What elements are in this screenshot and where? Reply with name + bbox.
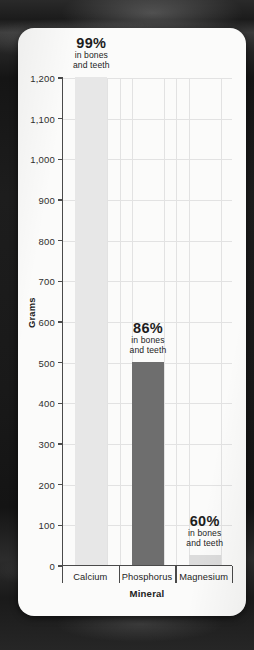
- y-axis-tick-label: 500: [39, 357, 55, 368]
- y-axis-tick-label: 200: [39, 479, 55, 490]
- x-axis-title: Mineral: [62, 588, 232, 599]
- category-separator: [232, 566, 233, 583]
- bar-magnesium[interactable]: [189, 555, 221, 565]
- annotation-percent: 99%: [63, 35, 120, 51]
- bar-annotation-calcium: 99%in bonesand teeth: [63, 35, 120, 70]
- plot-area: 01002003004005006007008009001,0001,1001,…: [62, 78, 232, 566]
- bar-annotation-phosphorus: 86%in bonesand teeth: [120, 320, 177, 355]
- y-axis-tick: [58, 362, 63, 363]
- y-axis-tick: [58, 118, 63, 119]
- y-axis-tick: [58, 443, 63, 444]
- y-axis-tick-label: 400: [39, 398, 55, 409]
- y-axis-title: Grams: [26, 297, 37, 328]
- y-axis-tick-label: 900: [39, 195, 55, 206]
- annotation-percent: 86%: [120, 320, 177, 336]
- y-axis-tick-label: 600: [39, 317, 55, 328]
- annotation-line-2: and teeth: [176, 539, 233, 549]
- annotation-line-2: and teeth: [120, 346, 177, 356]
- gridline-vertical: [221, 78, 222, 565]
- gridline-vertical: [189, 78, 190, 565]
- y-axis-tick-label: 1,000: [30, 154, 55, 165]
- bar-calcium[interactable]: [75, 77, 107, 565]
- category-label-magnesium: Magnesium: [175, 572, 232, 582]
- y-axis-tick-label: 0: [50, 561, 55, 572]
- y-axis-tick-label: 100: [39, 520, 55, 531]
- bar-annotation-magnesium: 60%in bonesand teeth: [176, 513, 233, 548]
- bar-phosphorus[interactable]: [132, 362, 164, 565]
- category-label-calcium: Calcium: [62, 572, 119, 582]
- y-axis-tick: [58, 199, 63, 200]
- category-label-phosphorus: Phosphorus: [119, 572, 176, 582]
- y-axis-tick: [58, 77, 63, 78]
- chart-card: Grams 01002003004005006007008009001,0001…: [18, 28, 246, 616]
- category-separator: [175, 566, 176, 583]
- y-axis-tick: [58, 484, 63, 485]
- annotation-percent: 60%: [176, 513, 233, 529]
- annotation-line-2: and teeth: [63, 61, 120, 71]
- category-separator: [62, 566, 63, 583]
- category-separator: [119, 566, 120, 583]
- gridline-vertical: [176, 78, 177, 565]
- y-axis-tick: [58, 525, 63, 526]
- y-axis-tick: [58, 403, 63, 404]
- y-axis-tick: [58, 240, 63, 241]
- y-axis-tick-label: 800: [39, 235, 55, 246]
- bar-chart: Grams 01002003004005006007008009001,0001…: [18, 28, 246, 616]
- y-axis-tick: [58, 159, 63, 160]
- y-axis-tick: [58, 321, 63, 322]
- y-axis-tick-label: 1,200: [30, 73, 55, 84]
- y-axis-tick-label: 700: [39, 276, 55, 287]
- y-axis-tick-label: 300: [39, 439, 55, 450]
- y-axis-tick: [58, 281, 63, 282]
- y-axis-tick-label: 1,100: [30, 113, 55, 124]
- gridline-vertical: [107, 78, 108, 565]
